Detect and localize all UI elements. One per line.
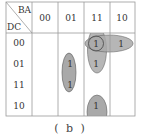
cell-10-11: 1 xyxy=(93,101,99,111)
col-header-00: 00 xyxy=(39,13,51,23)
karnaugh-map: BA DC 00 01 11 10 00 01 11 10 1 1 1 1 1 … xyxy=(0,0,141,139)
cell-01-01: 1 xyxy=(67,59,73,69)
row-header-01: 01 xyxy=(13,59,24,69)
row-header-00: 00 xyxy=(13,38,25,48)
cell-11-01: 1 xyxy=(67,80,73,90)
col-header-11: 11 xyxy=(91,13,102,23)
row-var-label: DC xyxy=(7,22,21,32)
col-var-label: BA xyxy=(18,5,32,15)
figure-caption: ( b ) xyxy=(0,122,141,135)
col-header-10: 10 xyxy=(116,13,128,23)
cell-00-10: 1 xyxy=(118,39,124,49)
cell-00-11: 1 xyxy=(93,39,99,49)
row-header-11: 11 xyxy=(13,80,24,90)
col-header-01: 01 xyxy=(65,13,76,23)
row-header-10: 10 xyxy=(13,101,25,111)
cell-01-11: 1 xyxy=(93,59,99,69)
